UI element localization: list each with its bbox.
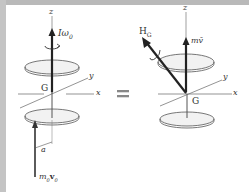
- impulse-label: m0v0: [39, 172, 58, 183]
- right-y-label: y: [223, 73, 228, 81]
- left-g-label: G: [41, 84, 48, 93]
- left-z-label: z: [49, 8, 53, 16]
- equals-sign-graphic: [117, 90, 129, 97]
- right-hg-label: HG: [139, 27, 152, 38]
- left-x-label: x: [96, 89, 101, 97]
- hg-subscript: G: [147, 31, 152, 38]
- left-y-label: y: [89, 72, 94, 80]
- left-iw-subscript: 0: [69, 33, 73, 40]
- hg-h-text: H: [139, 26, 147, 36]
- right-g-label: G: [192, 97, 199, 106]
- right-z-label: z: [183, 4, 187, 12]
- right-figure: [142, 12, 232, 128]
- momentum-diagram: [0, 0, 249, 192]
- impulse-v-sub: 0: [54, 177, 57, 183]
- right-y-axis: [160, 80, 222, 106]
- left-figure: [18, 16, 94, 177]
- left-iw-text: Iω: [58, 28, 69, 38]
- impulse-m: m: [39, 172, 47, 181]
- offset-a-label: a: [41, 146, 46, 154]
- right-x-label: x: [233, 89, 238, 97]
- left-angular-momentum-label: Iω0: [58, 29, 73, 40]
- right-mv-label: mv̄: [191, 37, 203, 45]
- left-y-axis: [20, 78, 88, 108]
